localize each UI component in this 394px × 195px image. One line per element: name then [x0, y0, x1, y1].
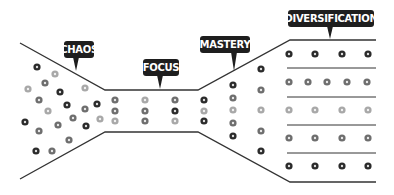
dot-icon: [33, 63, 40, 70]
dot-icon: [285, 50, 292, 57]
dot-icon: [364, 106, 371, 113]
dot-icon: [311, 106, 318, 113]
dot-icon: [41, 79, 48, 86]
funnel-bottom-edge: [20, 132, 376, 182]
dot-icon: [35, 96, 42, 103]
dot-icon: [364, 134, 371, 141]
dot-icon: [56, 88, 63, 95]
dot-icon: [200, 96, 207, 103]
dot-icon: [338, 106, 345, 113]
dot-icon: [257, 86, 264, 93]
dot-icon: [35, 127, 42, 134]
dot-icon: [311, 50, 318, 57]
dot-icon: [364, 50, 371, 57]
dot-icon: [51, 70, 58, 77]
dot-icon: [311, 162, 318, 169]
dot-icon: [200, 117, 207, 124]
pointer-icon: [73, 57, 79, 71]
dot-icon: [285, 78, 292, 85]
dot-icon: [343, 78, 350, 85]
stage-label-text: DIVERSIFICATION: [285, 13, 378, 24]
stage-labels: CHAOSFOCUSMASTERYDIVERSIFICATION: [60, 10, 377, 89]
dot-icon: [111, 96, 118, 103]
dot-icon: [44, 107, 51, 114]
dot-icon: [311, 134, 318, 141]
dot-icon: [93, 100, 100, 107]
dot-icon: [257, 65, 264, 72]
dot-icon: [229, 94, 236, 101]
dot-icon: [323, 78, 330, 85]
dot-icon: [229, 81, 236, 88]
dot-icon: [81, 105, 88, 112]
funnel-outline: [20, 40, 376, 182]
dot-icon: [111, 107, 118, 114]
dot-icon: [229, 119, 236, 126]
dot-icon: [364, 162, 371, 169]
dot-icon: [285, 162, 292, 169]
dot-icon: [338, 162, 345, 169]
dot-icon: [338, 50, 345, 57]
dot-icon: [363, 78, 370, 85]
dot-icon: [141, 117, 148, 124]
dot-icon: [304, 78, 311, 85]
dot-icon: [257, 106, 264, 113]
dot-icon: [111, 117, 118, 124]
stage-label-text: CHAOS: [60, 44, 98, 55]
dot-icon: [81, 84, 88, 91]
pointer-icon: [327, 26, 333, 39]
dot-icon: [32, 147, 39, 154]
dot-icon: [285, 134, 292, 141]
stage-label-focus: FOCUS: [143, 59, 180, 89]
stage-label-text: FOCUS: [143, 62, 180, 73]
pointer-icon: [157, 75, 163, 89]
dot-icon: [96, 115, 103, 122]
dot-icon: [65, 136, 72, 143]
pointer-icon: [231, 52, 237, 71]
dot-icon: [229, 106, 236, 113]
dot-icon: [257, 147, 264, 154]
dot-icon: [171, 107, 178, 114]
dot-icon: [171, 117, 178, 124]
dot-icon: [285, 106, 292, 113]
dot-icon: [21, 118, 28, 125]
dot-icon: [141, 96, 148, 103]
dot-icon: [171, 96, 178, 103]
stage-label-chaos: CHAOS: [60, 41, 98, 71]
dot-icon: [63, 101, 70, 108]
dot-icon: [54, 121, 61, 128]
dot-icon: [141, 107, 148, 114]
dot-icon: [200, 107, 207, 114]
dot-icon: [24, 85, 31, 92]
funnel-diagram: CHAOSFOCUSMASTERYDIVERSIFICATION: [0, 0, 394, 195]
dot-icon: [69, 114, 76, 121]
dot-icon: [229, 132, 236, 139]
dot-icon: [257, 127, 264, 134]
dot-icon: [82, 122, 89, 129]
stage-label-text: MASTERY: [200, 39, 252, 50]
dot-icon: [48, 147, 55, 154]
stage-label-diversification: DIVERSIFICATION: [285, 10, 378, 39]
dot-icon: [338, 134, 345, 141]
